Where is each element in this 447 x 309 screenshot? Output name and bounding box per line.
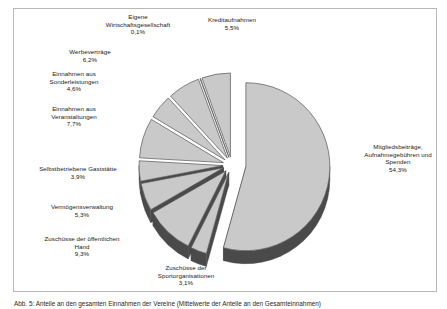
- pie-slice-value: 0,1%: [88, 28, 188, 36]
- pie-slice-label: Vermögensverwaltung5,3%: [26, 203, 138, 218]
- pie-slice-label: Selbstbetriebene Gaststätte3,9%: [18, 165, 138, 180]
- pie-slice-value: 4,6%: [22, 85, 126, 93]
- pie-slice-label: Einnahmen aus Sonderleistungen4,6%: [22, 70, 126, 93]
- figure-container: Mitgliedsbeiträge, Aufnahmegebühren und …: [0, 0, 447, 309]
- pie-slice-label-text: Selbstbetriebene Gaststätte: [18, 165, 138, 173]
- pie-slice-value: 54,3%: [352, 166, 444, 174]
- figure-caption: Abb. 5: Anteile an den gesamten Einnahme…: [14, 300, 434, 309]
- pie-slice-label: Eigene Wirtschaftsgesellschaft0,1%: [88, 13, 188, 36]
- pie-slice-label: Einnahmen aus Veranstaltungen7,7%: [22, 105, 126, 128]
- pie-slice-label-text: Einnahmen aus Sonderleistungen: [22, 70, 126, 85]
- pie-slice-value: 5,3%: [26, 211, 138, 219]
- pie-slice-label-text: Zuschüsse der Sportorganisationen: [140, 264, 232, 279]
- pie-slice-label-text: Werbeverträge: [44, 48, 136, 56]
- pie-slice-label-text: Vermögensverwaltung: [26, 203, 138, 211]
- pie-slice-value: 3,9%: [18, 173, 138, 181]
- pie-slice-label: Kreditaufnahmen5,5%: [186, 16, 278, 31]
- pie-slice-label: Zuschüsse der Sportorganisationen3,1%: [140, 264, 232, 287]
- pie-slice-label-text: Mitgliedsbeiträge, Aufnahmegebühren und …: [352, 143, 444, 166]
- pie-slice-value: 9,3%: [26, 250, 138, 258]
- pie-slice-value: 5,5%: [186, 24, 278, 32]
- pie-slice-label-text: Einnahmen aus Veranstaltungen: [22, 105, 126, 120]
- pie-slice-label: Zuschüsse der öffentlichen Hand9,3%: [26, 235, 138, 258]
- pie-slice-value: 6,2%: [44, 56, 136, 64]
- pie-slice-label: Mitgliedsbeiträge, Aufnahmegebühren und …: [352, 143, 444, 173]
- pie-slice-label-text: Kreditaufnahmen: [186, 16, 278, 24]
- pie-slice-label-text: Eigene Wirtschaftsgesellschaft: [88, 13, 188, 28]
- pie-slice-label: Werbeverträge6,2%: [44, 48, 136, 63]
- pie-slice-value: 3,1%: [140, 279, 232, 287]
- pie-slice-value: 7,7%: [22, 120, 126, 128]
- pie-slice-label-text: Zuschüsse der öffentlichen Hand: [26, 235, 138, 250]
